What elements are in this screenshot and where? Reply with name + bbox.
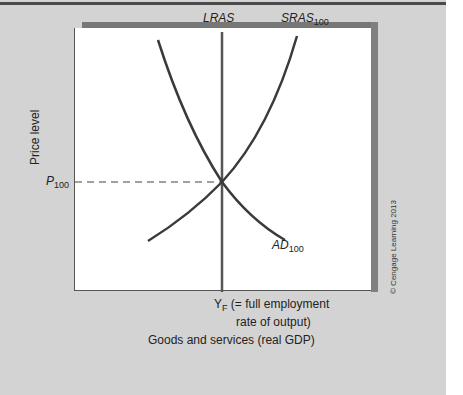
yf-label: YF (= full employmentrate of output) bbox=[214, 297, 329, 329]
sras-label-sub: 100 bbox=[314, 17, 329, 27]
yf-label-line2: rate of output) bbox=[214, 315, 329, 329]
ad-label-sub: 100 bbox=[289, 244, 304, 254]
x-axis-label: Goods and services (real GDP) bbox=[148, 333, 315, 347]
lras-label: LRAS bbox=[203, 11, 234, 25]
copyright-credit: © Cengage Learning 2013 bbox=[389, 200, 398, 294]
y-axis-label: Price level bbox=[28, 110, 42, 165]
p100-label: P100 bbox=[46, 174, 69, 190]
sras-label: SRAS100 bbox=[281, 11, 329, 27]
yf-label-main: Y bbox=[214, 297, 222, 311]
ad-label: AD100 bbox=[272, 238, 304, 254]
p100-label-sub: 100 bbox=[54, 180, 69, 190]
ad-label-main: AD bbox=[272, 238, 289, 252]
p100-label-main: P bbox=[46, 174, 54, 188]
yf-label-line1: (= full employment bbox=[228, 297, 330, 311]
sras-label-main: SRAS bbox=[281, 11, 314, 25]
